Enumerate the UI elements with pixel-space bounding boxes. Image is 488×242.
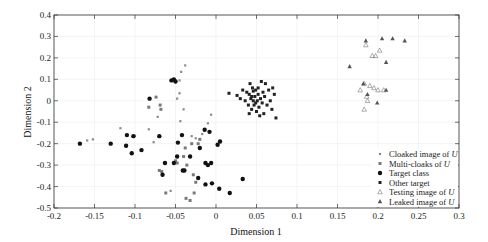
y-tick-label: -0.2 xyxy=(37,139,51,149)
x-axis-label: Dimension 1 xyxy=(230,226,281,237)
y-tick-labels: 0.40.30.20.10-0.1-0.2-0.3-0.4-0.5 xyxy=(37,10,52,213)
legend-label: Target class xyxy=(389,168,429,178)
y-tick-label: -0.3 xyxy=(37,160,52,170)
y-axis-label: Dimension 2 xyxy=(22,86,33,137)
x-tick-labels: -0.2-0.15-0.1-0.0500.050.10.150.20.250.3 xyxy=(47,211,465,221)
legend-item: Leaked image of U xyxy=(378,197,455,207)
y-tick-label: 0.2 xyxy=(40,53,51,63)
x-tick-label: 0.3 xyxy=(453,211,465,221)
series-target-class xyxy=(78,77,245,195)
x-tick-label: 0.2 xyxy=(372,211,383,221)
y-tick-label: 0.4 xyxy=(40,10,52,20)
legend-item: Cloaked image of U xyxy=(379,149,459,159)
y-tick-label: 0.1 xyxy=(40,74,51,84)
legend-item: Testing image of U xyxy=(378,187,455,197)
y-tick-label: 0 xyxy=(47,96,52,106)
legend-label: Other target xyxy=(389,178,430,188)
legend-label: Multi-cloaks of U xyxy=(389,159,451,169)
series-cloaked-image-of-u xyxy=(86,64,212,192)
y-tick-label: -0.1 xyxy=(37,117,51,127)
legend-item: Multi-cloaks of U xyxy=(379,159,451,169)
y-tick-label: 0.3 xyxy=(40,31,52,41)
x-tick-label: 0.1 xyxy=(291,211,302,221)
x-tick-label: 0.15 xyxy=(330,211,346,221)
x-tick-label: 0 xyxy=(214,211,219,221)
data-points xyxy=(78,36,407,202)
legend: Cloaked image of UMulti-cloaks of UTarge… xyxy=(372,148,459,207)
series-leaked-image-of-u xyxy=(347,36,406,104)
legend-label: Cloaked image of U xyxy=(389,149,459,159)
legend-label: Leaked image of U xyxy=(389,197,455,207)
y-tick-label: -0.5 xyxy=(37,203,52,213)
series-multi-cloaks-of-u xyxy=(147,96,201,202)
x-tick-label: -0.15 xyxy=(85,211,104,221)
x-tick-label: 0.05 xyxy=(249,211,265,221)
scatter-chart: -0.2-0.15-0.1-0.0500.050.10.150.20.250.3… xyxy=(0,0,488,242)
x-tick-label: -0.1 xyxy=(128,211,142,221)
y-tick-label: -0.4 xyxy=(37,182,52,192)
legend-label: Testing image of U xyxy=(389,187,455,197)
series-other-target xyxy=(227,80,277,119)
x-tick-label: -0.05 xyxy=(166,211,185,221)
x-tick-label: 0.25 xyxy=(411,211,427,221)
